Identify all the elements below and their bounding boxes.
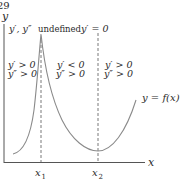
x2-marker-label: x 2 — [92, 167, 103, 181]
function-curve — [13, 34, 136, 154]
derivative-sign-diagram: 29 y x y′, y″ undefined y′ = 0 y′ > 0 y″… — [0, 0, 192, 181]
stationary-point-label: y′ = 0 — [80, 23, 109, 34]
cusp-undefined-label: undefined — [38, 24, 82, 34]
cusp-derivatives-label: y′, y″ — [8, 23, 32, 34]
y-axis-label: y — [1, 10, 9, 23]
x1-marker-label: x 1 — [35, 167, 46, 181]
left-region-second-derivative: y″ > 0 — [7, 68, 37, 79]
x1-symbol: x — [35, 167, 41, 178]
right-region-second-derivative: y″ > 0 — [103, 68, 133, 79]
x1-subscript: 1 — [42, 173, 46, 181]
curve-label: y = f(x) — [141, 92, 180, 103]
x2-subscript: 2 — [99, 173, 103, 181]
x2-symbol: x — [92, 167, 98, 178]
middle-region-second-derivative: y″ > 0 — [55, 68, 85, 79]
x-axis-label: x — [148, 156, 155, 169]
